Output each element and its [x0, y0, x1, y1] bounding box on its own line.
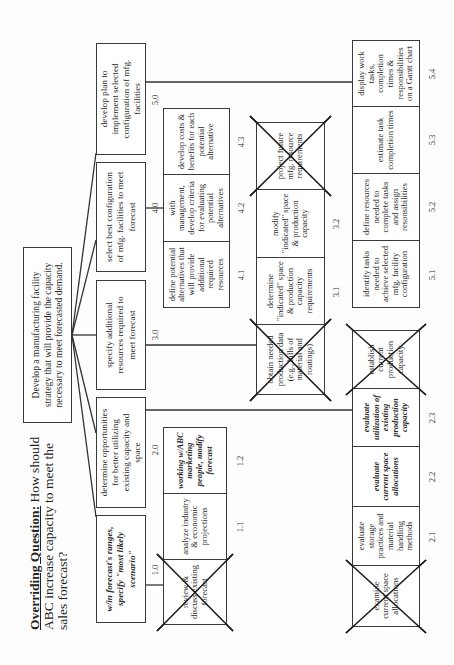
diagram-page: Overriding Question: How should ABC incr…	[0, 0, 454, 665]
cross-out-marks	[0, 0, 454, 665]
